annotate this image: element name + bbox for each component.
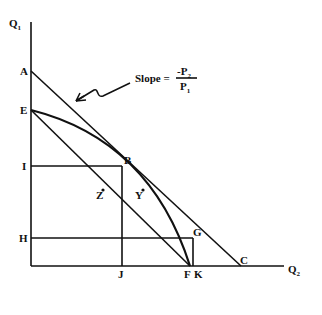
label-g: G [193,226,202,238]
label-y: Y [135,189,143,201]
label-f: F [184,268,191,280]
label-k: K [194,268,203,280]
label-c: C [240,254,248,266]
y-axis-label: Q1 [9,17,22,32]
svg-text:Slope =: Slope = [135,72,170,84]
label-z: Z [96,189,103,201]
label-e: E [20,104,27,116]
label-j: J [118,268,124,280]
ppf-diagram: Q1 Q2 A E I H B G C J F K Z Y Slope = -P… [0,0,322,315]
slope-annotation: Slope = -P2 P1 [135,65,197,95]
zigzag-arrow-icon [76,83,130,101]
svg-text:P1: P1 [180,80,191,95]
label-h: H [19,232,28,244]
label-a: A [20,65,28,77]
chord-line-ef [31,110,190,266]
label-i: I [22,160,26,172]
label-b: B [124,154,132,166]
x-axis-label: Q2 [288,263,301,278]
